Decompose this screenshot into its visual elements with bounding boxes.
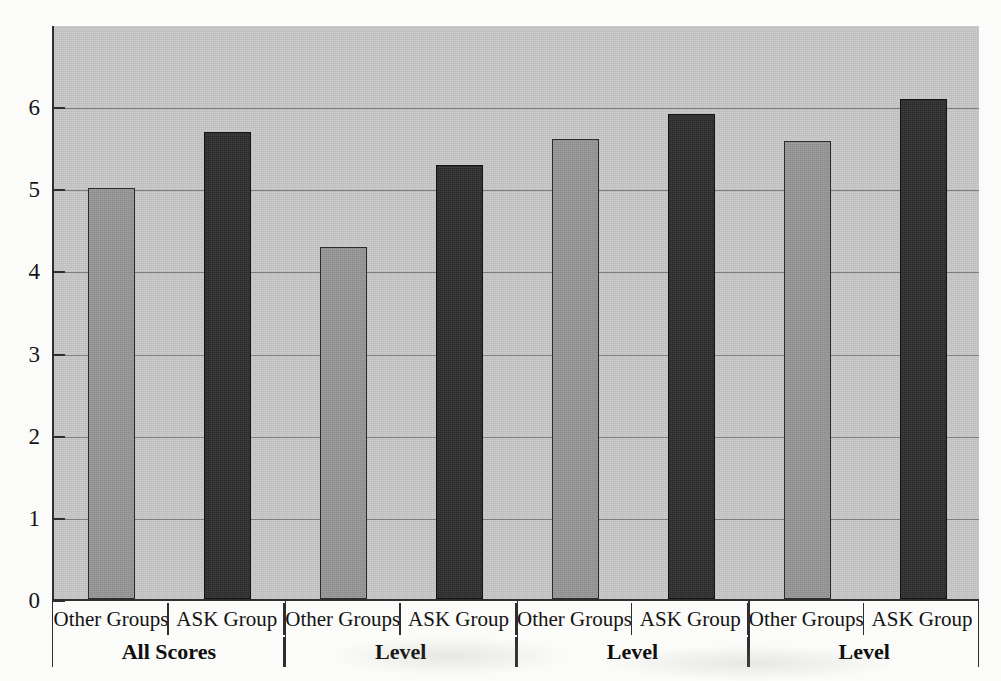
- bar-texture: [669, 115, 714, 598]
- y-tick-mark: [52, 354, 65, 356]
- y-tick-label: 0: [29, 589, 41, 612]
- gridline: [54, 437, 979, 438]
- y-tick-label: 4: [29, 260, 41, 283]
- bar-texture: [89, 189, 134, 598]
- y-axis: 0123456: [0, 26, 52, 601]
- bar-texture: [785, 142, 830, 598]
- x-category-label: Other Groups: [285, 601, 401, 637]
- group-separator: [285, 601, 287, 667]
- gridline: [54, 108, 979, 109]
- paper-texture: [54, 26, 979, 599]
- y-tick-mark: [52, 107, 65, 109]
- bar-other-groups-2: [320, 247, 367, 599]
- y-tick-label: 3: [29, 343, 41, 366]
- y-tick-label: 6: [29, 96, 41, 119]
- gridline: [54, 519, 979, 520]
- bar-texture: [901, 100, 946, 598]
- x-category-label: Other Groups: [748, 601, 864, 637]
- gridline: [54, 190, 979, 191]
- plot-area: [52, 26, 979, 601]
- x-axis-label-table: Other GroupsASK GroupOther GroupsASK Gro…: [52, 601, 979, 667]
- bar-texture: [553, 140, 598, 598]
- group-separator: [748, 601, 750, 667]
- x-category-label: Other Groups: [517, 601, 633, 637]
- bar-ask-group-7: [900, 99, 947, 599]
- bar-other-groups-6: [784, 141, 831, 599]
- x-group-label: Level: [748, 637, 980, 667]
- category-label-row: Other GroupsASK GroupOther GroupsASK Gro…: [53, 601, 978, 637]
- y-tick-mark: [52, 271, 65, 273]
- gridline: [54, 272, 979, 273]
- x-group-label: Level: [517, 637, 749, 667]
- gridline: [54, 355, 979, 356]
- bar-texture: [321, 248, 366, 598]
- y-tick-mark: [52, 189, 65, 191]
- bar-texture: [205, 133, 250, 598]
- y-tick-mark: [52, 518, 65, 520]
- x-group-label: Level: [285, 637, 517, 667]
- x-group-label: All Scores: [53, 637, 285, 667]
- bar-texture: [437, 166, 482, 598]
- x-category-label: ASK Group: [864, 601, 980, 637]
- x-category-label: ASK Group: [632, 601, 748, 637]
- group-separator: [517, 601, 519, 667]
- bar-ask-group-3: [436, 165, 483, 599]
- bar-other-groups-4: [552, 139, 599, 599]
- y-tick-mark: [52, 436, 65, 438]
- x-category-label: ASK Group: [169, 601, 285, 637]
- bar-ask-group-1: [204, 132, 251, 599]
- y-tick-label: 2: [29, 425, 41, 448]
- y-tick-label: 1: [29, 507, 41, 530]
- y-tick-label: 5: [29, 178, 41, 201]
- group-label-row: All ScoresLevelLevelLevel: [53, 637, 978, 667]
- bar-ask-group-5: [668, 114, 715, 599]
- bar-other-groups-0: [88, 188, 135, 599]
- x-category-label: ASK Group: [401, 601, 517, 637]
- x-category-label: Other Groups: [53, 601, 169, 637]
